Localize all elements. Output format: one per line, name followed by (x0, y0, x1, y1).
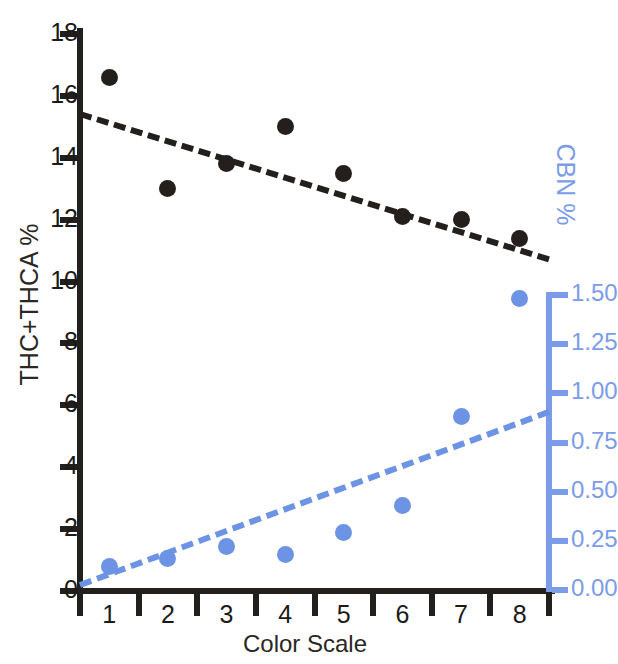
y-tick-label-left: 14 (32, 142, 78, 171)
y-tick-label-left: 18 (32, 18, 78, 47)
x-tick-mark (312, 594, 318, 616)
y-tick-label-right: 1.50 (571, 279, 618, 307)
x-tick-mark (77, 594, 83, 616)
x-tick-mark (487, 594, 493, 616)
x-tick-label: 3 (207, 600, 247, 629)
x-tick-label: 5 (324, 600, 364, 629)
data-point (101, 69, 118, 86)
data-point (394, 497, 411, 514)
trendline (79, 111, 550, 262)
y-tick-mark-right (552, 440, 568, 446)
y-tick-label-left: 16 (32, 80, 78, 109)
x-tick-mark (429, 594, 435, 616)
x-tick-label: 7 (441, 600, 481, 629)
y-tick-label-left: 6 (32, 389, 78, 418)
trendline (79, 409, 550, 588)
y-tick-mark-right (552, 292, 568, 298)
data-point (453, 211, 470, 228)
data-point (335, 165, 352, 182)
data-point (159, 180, 176, 197)
x-tick-label: 6 (382, 600, 422, 629)
x-tick-mark (370, 594, 376, 616)
x-tick-mark (136, 594, 142, 616)
y-tick-label-left: 4 (32, 451, 78, 480)
y-tick-label-right: 0.00 (571, 574, 618, 602)
x-tick-label: 1 (89, 600, 129, 629)
y-tick-mark-right (552, 341, 568, 347)
y-tick-label-right: 0.75 (571, 427, 618, 455)
data-point (218, 155, 235, 172)
x-tick-label: 8 (500, 600, 540, 629)
y-tick-mark-right (552, 489, 568, 495)
y-tick-mark-right (552, 538, 568, 544)
x-tick-label: 4 (265, 600, 305, 629)
y-tick-label-left: 10 (32, 266, 78, 295)
x-tick-mark (194, 594, 200, 616)
data-point (218, 538, 235, 555)
y-tick-label-right: 0.25 (571, 525, 618, 553)
y-tick-label-right: 0.50 (571, 476, 618, 504)
data-point (101, 558, 118, 575)
y-tick-label-left: 12 (32, 204, 78, 233)
x-tick-label: 2 (148, 600, 188, 629)
x-tick-mark (253, 594, 259, 616)
y-axis-title-left: THC+THCA % (15, 210, 44, 400)
y-tick-mark-right (552, 390, 568, 396)
data-point (394, 208, 411, 225)
y-tick-label-left: 2 (32, 513, 78, 542)
data-point (511, 290, 528, 307)
data-point (511, 230, 528, 247)
data-point (453, 408, 470, 425)
y-tick-label-right: 1.25 (571, 328, 618, 356)
data-point (159, 550, 176, 567)
data-point (335, 524, 352, 541)
x-tick-mark (546, 594, 552, 616)
data-point (277, 118, 294, 135)
y-axis-title-right: CBN % (551, 125, 580, 245)
x-axis-title: Color Scale (0, 630, 610, 658)
y-tick-label-left: 8 (32, 327, 78, 356)
y-tick-label-right: 1.00 (571, 377, 618, 405)
data-point (277, 546, 294, 563)
y-tick-mark-right (552, 587, 568, 593)
y-tick-label-left: 0 (32, 575, 78, 604)
